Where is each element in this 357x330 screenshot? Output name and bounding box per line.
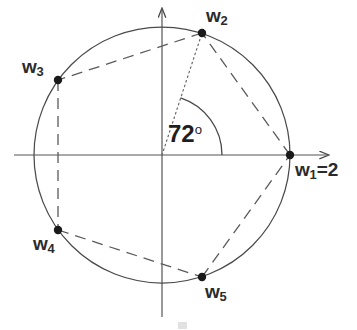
point-label-w1: w1=2 (295, 160, 338, 182)
point-label-w5-sub: 5 (220, 289, 227, 304)
edge-w5-w1 (202, 155, 290, 277)
point-w4 (54, 226, 62, 234)
angle-label-72-degrees: 72o (168, 122, 202, 146)
point-label-w1-sub: 1 (310, 167, 317, 182)
edge-w1-w2 (202, 33, 290, 155)
angle-value: 72 (168, 120, 195, 147)
point-label-w5-base: w (205, 281, 220, 302)
point-label-w3: w3 (22, 57, 44, 79)
point-label-w3-base: w (22, 56, 37, 77)
point-label-w3-sub: 3 (37, 64, 44, 79)
point-label-w1-suffix: =2 (317, 159, 338, 180)
point-label-w5: w5 (205, 282, 227, 304)
point-w2 (198, 29, 206, 37)
point-label-w2-base: w (206, 5, 221, 26)
point-label-w4-sub: 4 (48, 241, 55, 256)
roots-of-unity-figure: w1=2 w2 w3 w4 w5 72o (0, 0, 357, 330)
point-w5 (198, 273, 206, 281)
bottom-edge-artifact (178, 322, 187, 329)
point-label-w4-base: w (33, 233, 48, 254)
point-label-w2: w2 (206, 6, 228, 28)
point-w3 (54, 76, 62, 84)
degree-symbol-icon: o (195, 122, 202, 137)
point-label-w4: w4 (33, 234, 55, 256)
point-w1 (286, 151, 294, 159)
point-label-w2-sub: 2 (221, 13, 228, 28)
point-label-w1-base: w (295, 159, 310, 180)
